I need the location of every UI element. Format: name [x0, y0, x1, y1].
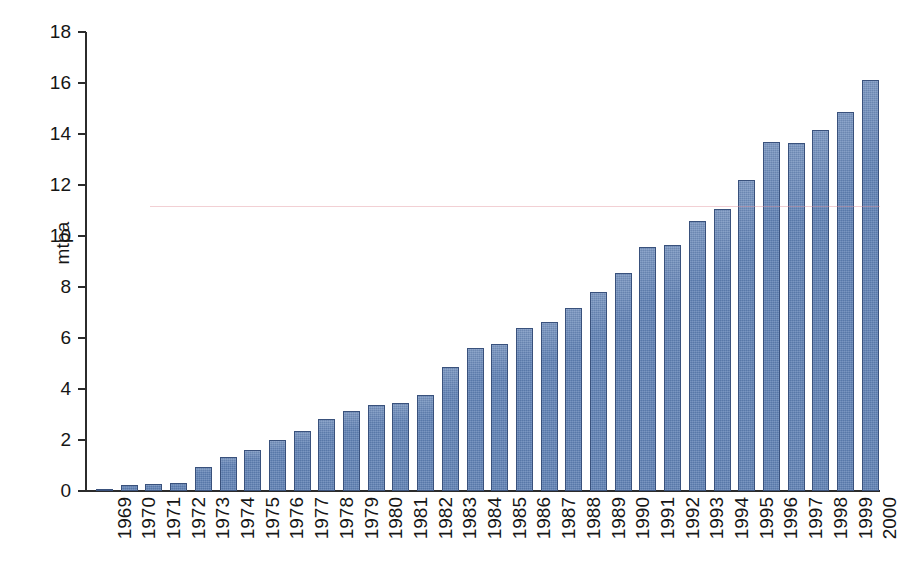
y-axis-tick — [78, 286, 86, 288]
bar[interactable] — [788, 143, 805, 491]
bar[interactable] — [763, 142, 780, 491]
bar-chart: mtpa 024681012141618 1969197019711972197… — [0, 0, 900, 578]
y-axis-tick — [78, 235, 86, 237]
x-axis-tick-label: 1981 — [411, 497, 430, 569]
y-axis-tick-label-text: 6 — [41, 328, 71, 347]
bar[interactable] — [541, 322, 558, 491]
y-axis-tick-label: 16 — [33, 73, 71, 92]
x-axis-tick-label: 1998 — [831, 497, 850, 569]
y-axis-tick-label: 18 — [33, 22, 71, 41]
x-axis-tick-label: 1977 — [312, 497, 331, 569]
plot-area — [87, 32, 880, 491]
y-axis-tick-label: 8 — [33, 277, 71, 296]
bar[interactable] — [121, 485, 138, 491]
x-axis-tick-label: 1989 — [609, 497, 628, 569]
y-axis-tick-label-text: 8 — [41, 277, 71, 296]
y-axis-tick — [78, 31, 86, 33]
bar[interactable] — [220, 457, 237, 491]
x-axis-tick-label: 1972 — [189, 497, 208, 569]
y-axis-tick-label-text: 4 — [41, 379, 71, 398]
y-axis-tick-label: 2 — [33, 430, 71, 449]
bar[interactable] — [392, 403, 409, 491]
y-axis-tick-label: 4 — [33, 379, 71, 398]
y-axis-tick-label: 12 — [33, 175, 71, 194]
bar[interactable] — [318, 419, 335, 491]
bar[interactable] — [343, 411, 360, 491]
x-axis-tick-label: 1985 — [510, 497, 529, 569]
bar[interactable] — [170, 483, 187, 491]
x-axis-tick-label: 1996 — [781, 497, 800, 569]
bar[interactable] — [664, 245, 681, 491]
bar[interactable] — [294, 431, 311, 491]
x-axis-tick-label: 1990 — [633, 497, 652, 569]
x-axis-tick-label: 1992 — [683, 497, 702, 569]
x-axis-tick-label: 1978 — [337, 497, 356, 569]
x-axis-tick-label: 1987 — [559, 497, 578, 569]
bar[interactable] — [368, 405, 385, 491]
x-axis-tick-label: 1994 — [732, 497, 751, 569]
x-axis-tick-label: 1983 — [460, 497, 479, 569]
x-axis-tick-label: 1971 — [164, 497, 183, 569]
x-axis-tick-label: 1982 — [436, 497, 455, 569]
x-axis-tick-label: 1976 — [287, 497, 306, 569]
bar[interactable] — [195, 467, 212, 491]
x-axis-tick-label: 1973 — [213, 497, 232, 569]
bar[interactable] — [639, 247, 656, 491]
bar[interactable] — [269, 440, 286, 492]
x-axis-tick-label: 1969 — [115, 497, 134, 569]
x-axis-tick-label: 1984 — [485, 497, 504, 569]
x-axis-tick-label: 1988 — [584, 497, 603, 569]
bar[interactable] — [837, 112, 854, 491]
y-axis-tick — [78, 439, 86, 441]
x-axis-tick-label: 1999 — [856, 497, 875, 569]
x-axis-tick-label: 1970 — [139, 497, 158, 569]
y-axis-tick-label: 6 — [33, 328, 71, 347]
bar[interactable] — [467, 348, 484, 491]
y-axis-tick — [78, 184, 86, 186]
bar[interactable] — [590, 292, 607, 491]
x-axis-tick-label: 2000 — [880, 497, 899, 569]
bar[interactable] — [738, 180, 755, 491]
x-axis-tick-label: 1974 — [238, 497, 257, 569]
y-axis-tick-label: 14 — [33, 124, 71, 143]
x-axis-tick-label: 1995 — [757, 497, 776, 569]
y-axis-tick-label-text: 10 — [41, 226, 71, 245]
bar[interactable] — [417, 395, 434, 491]
y-axis-tick-label-text: 12 — [41, 175, 71, 194]
y-axis-tick-label-text: 0 — [41, 481, 71, 500]
x-axis-tick-label: 1997 — [806, 497, 825, 569]
bar[interactable] — [145, 484, 162, 491]
bar[interactable] — [244, 450, 261, 491]
x-axis-tick-label: 1980 — [386, 497, 405, 569]
y-axis-tick — [78, 337, 86, 339]
x-axis-tick-label: 1975 — [263, 497, 282, 569]
bar[interactable] — [565, 308, 582, 491]
bar[interactable] — [516, 328, 533, 491]
bar[interactable] — [689, 221, 706, 491]
x-axis-tick-label: 1979 — [362, 497, 381, 569]
bar[interactable] — [862, 80, 879, 491]
y-axis-tick-label-text: 18 — [41, 22, 71, 41]
x-axis-tick-label: 1986 — [534, 497, 553, 569]
bar[interactable] — [615, 273, 632, 491]
x-axis-tick-label: 1993 — [707, 497, 726, 569]
y-axis-tick — [78, 388, 86, 390]
bar[interactable] — [812, 130, 829, 491]
bar[interactable] — [96, 489, 113, 491]
y-axis-tick — [78, 490, 86, 492]
y-axis-tick-label-text: 16 — [41, 73, 71, 92]
x-axis-tick-label: 1991 — [658, 497, 677, 569]
bar[interactable] — [442, 367, 459, 491]
y-axis-tick-label: 10 — [33, 226, 71, 245]
y-axis-tick — [78, 82, 86, 84]
bar[interactable] — [714, 209, 731, 491]
bar[interactable] — [491, 344, 508, 491]
y-axis-tick — [78, 133, 86, 135]
y-axis-tick-label: 0 — [33, 481, 71, 500]
y-axis-tick-label-text: 2 — [41, 430, 71, 449]
y-axis-tick-label-text: 14 — [41, 124, 71, 143]
